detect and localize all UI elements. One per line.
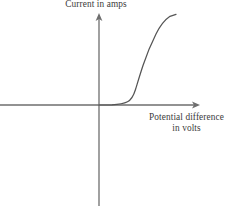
x-axis-label: Potential difference in volts	[140, 112, 233, 134]
diode-iv-chart: Current in amps Potential difference in …	[0, 0, 233, 206]
current-curve	[99, 14, 176, 105]
x-axis-label-line2: in volts	[140, 123, 233, 134]
y-axis-label: Current in amps	[0, 0, 192, 10]
chart-canvas	[0, 0, 233, 206]
x-axis-label-line1: Potential difference	[140, 112, 233, 123]
